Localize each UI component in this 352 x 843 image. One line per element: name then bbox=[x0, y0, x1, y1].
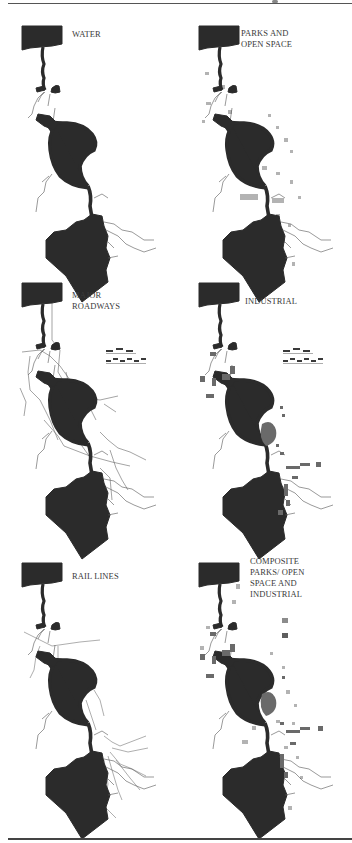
map-figure bbox=[0, 0, 352, 843]
panel-roadways-map bbox=[20, 283, 156, 559]
panel-label-roadways: MAJOR ROADWAYS bbox=[72, 290, 120, 312]
composite-legend bbox=[282, 618, 288, 638]
panel-parks-map bbox=[199, 26, 333, 302]
legend-swatch-industrial bbox=[282, 633, 288, 638]
roadway-legend-symbols bbox=[106, 348, 146, 364]
panel-industrial-map bbox=[199, 283, 333, 559]
panel-rail-map bbox=[22, 563, 156, 839]
panel-composite-map bbox=[199, 563, 333, 839]
bottom-rule bbox=[8, 838, 352, 840]
panel-label-rail: RAIL LINES bbox=[72, 571, 119, 582]
panel-label-water: WATER bbox=[72, 29, 101, 40]
panel-water-map bbox=[22, 26, 156, 302]
legend-swatch-parks bbox=[282, 618, 288, 623]
panel-label-composite: COMPOSITE PARKS/ OPEN SPACE AND INDUSTRI… bbox=[250, 556, 304, 600]
industrial-legend-symbols bbox=[283, 348, 323, 364]
panel-label-parks: PARKS AND OPEN SPACE bbox=[241, 28, 292, 50]
panel-label-industrial: INDUSTRIAL bbox=[245, 296, 297, 307]
